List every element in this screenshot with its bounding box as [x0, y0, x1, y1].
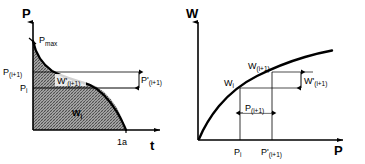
left-y-tick-upper-label: P(i+1)	[3, 67, 22, 79]
right-delta-p-sub: (i+1)	[251, 107, 264, 115]
left-area-label: Wi	[70, 105, 90, 120]
right-panel: W P Wi W(i+1) W'(i+1) P(i+1)	[186, 6, 343, 159]
svg-text:P'(i+1): P'(i+1)	[261, 147, 282, 159]
right-saturating-curve	[199, 51, 332, 140]
left-pmax-sub: max	[45, 40, 58, 47]
figure-canvas: P t Pmax P(i+1) Pi 1a W'(i+1)	[0, 0, 365, 164]
right-x-tick-right-sub: (i+1)	[269, 151, 282, 159]
svg-text:P(i+1): P(i+1)	[3, 67, 22, 79]
left-y-tick-upper-sub: (i+1)	[9, 71, 22, 79]
right-x-axis-title: P	[334, 143, 343, 158]
right-x-tick-right-label: P'(i+1)	[261, 147, 282, 159]
svg-text:Wi: Wi	[224, 78, 234, 89]
left-bracket-sub: (i+1)	[149, 79, 162, 87]
right-x-tick-left-sub: i	[240, 151, 241, 158]
right-wi-label: Wi	[224, 78, 234, 89]
left-y-tick-lower-sub: i	[26, 87, 27, 94]
left-x-axis-title: t	[150, 138, 155, 153]
left-area-sub: i	[81, 113, 83, 120]
svg-text:W(i+1): W(i+1)	[248, 61, 270, 73]
svg-text:Pmax: Pmax	[39, 35, 58, 47]
right-delta-w-sub: (i+1)	[314, 80, 327, 88]
right-wi1-label: W(i+1)	[248, 61, 270, 73]
left-y-tick-lower-label: Pi	[20, 83, 27, 94]
right-y-axis-title: W	[186, 6, 199, 21]
left-pmax-label: Pmax	[39, 35, 58, 47]
left-x-tick-label: 1a	[117, 137, 127, 147]
svg-text:P'(i+1): P'(i+1)	[141, 75, 162, 87]
left-bracket-label: P'(i+1)	[141, 75, 162, 87]
right-wi-sub: i	[233, 82, 234, 89]
svg-text:W'(i+1): W'(i+1)	[304, 76, 327, 88]
left-y-axis-title: P	[22, 6, 31, 21]
left-band-sub: (i+1)	[67, 80, 80, 88]
svg-text:Pi: Pi	[20, 83, 27, 94]
svg-text:Pi: Pi	[234, 147, 241, 158]
right-delta-w-label: W'(i+1)	[304, 76, 327, 88]
right-x-tick-left-label: Pi	[234, 147, 241, 158]
two-panel-figure: P t Pmax P(i+1) Pi 1a W'(i+1)	[0, 0, 365, 164]
right-wi1-sub: (i+1)	[257, 65, 270, 73]
left-panel: P t Pmax P(i+1) Pi 1a W'(i+1)	[3, 6, 162, 153]
